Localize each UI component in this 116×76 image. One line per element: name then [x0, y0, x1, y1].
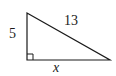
horizontal-leg-label: x: [52, 60, 60, 75]
right-angle-marker: [27, 54, 33, 60]
vertical-leg-label: 5: [9, 26, 16, 41]
hypotenuse-label: 13: [64, 13, 78, 28]
triangle-svg: 5 13 x: [0, 0, 116, 76]
triangle-diagram: 5 13 x: [0, 0, 116, 76]
